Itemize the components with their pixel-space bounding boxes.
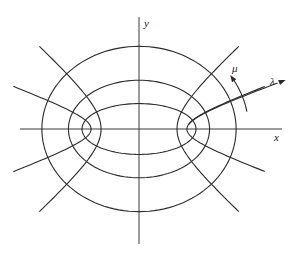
y-axis-label: y: [143, 17, 149, 29]
x-axis-label: x: [273, 131, 279, 143]
lambda-label: λ: [269, 75, 275, 87]
diagram-canvas: y x μ λ: [0, 0, 296, 255]
mu-label: μ: [231, 62, 238, 74]
mu-arrowhead-icon: [230, 75, 236, 82]
elliptic-coordinates-diagram: y x μ λ: [0, 0, 296, 255]
lambda-direction-arrow: [189, 83, 278, 125]
axes: [20, 17, 282, 244]
lambda-arrowhead-icon: [278, 80, 286, 85]
